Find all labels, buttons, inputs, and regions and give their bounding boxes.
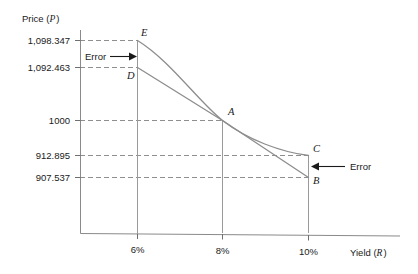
x-axis-title-close: ) xyxy=(383,247,386,258)
y-tick-label-1098: 1,098.347 xyxy=(28,35,70,46)
x-axis-title-variable: R xyxy=(376,248,383,258)
point-label-B: B xyxy=(313,175,320,186)
x-tick-label-10pct: 10% xyxy=(299,246,319,257)
error-lower-arrow-head xyxy=(311,163,319,171)
y-tick-label-1092: 1,092.463 xyxy=(28,62,70,73)
error-lower-label: Error xyxy=(350,161,371,172)
x-axis-title-text: Yield ( xyxy=(350,247,377,258)
x-axis-title: Yield (R) xyxy=(350,247,387,258)
point-label-E: E xyxy=(140,27,148,38)
price-yield-convexity-chart: Price (P) 1,098.347 1,092.463 1000 912.8… xyxy=(0,0,418,274)
y-axis-title-text: Price ( xyxy=(22,13,50,24)
chart-canvas: Price (P) 1,098.347 1,092.463 1000 912.8… xyxy=(0,0,418,274)
y-tick-label-912: 912.895 xyxy=(36,150,70,161)
error-upper-label: Error xyxy=(85,51,106,62)
y-tick-label-1000: 1000 xyxy=(49,115,70,126)
point-label-D: D xyxy=(126,70,135,81)
x-tick-label-6pct: 6% xyxy=(131,244,145,255)
y-axis-title-close: ) xyxy=(56,13,59,24)
x-tick-label-8pct: 8% xyxy=(216,245,230,256)
error-upper-arrow-head xyxy=(129,53,137,61)
y-axis-title: Price (P) xyxy=(22,13,59,24)
point-label-A: A xyxy=(227,106,235,117)
point-label-C: C xyxy=(313,143,321,154)
y-tick-label-907: 907.537 xyxy=(36,172,70,183)
y-axis-title-variable: P xyxy=(48,14,55,24)
x-axis xyxy=(81,234,401,237)
